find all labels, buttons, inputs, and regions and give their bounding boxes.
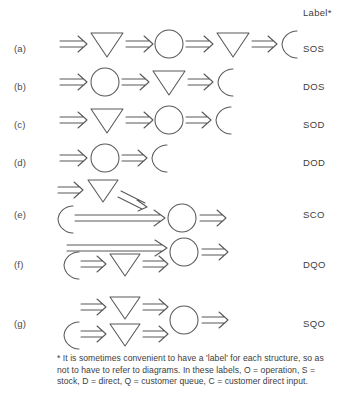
diagram-b bbox=[58, 64, 238, 102]
diagram-f bbox=[55, 236, 255, 294]
row-marker-e: (e) bbox=[14, 209, 26, 220]
row-label-a: SOS bbox=[303, 43, 324, 54]
diagram-e bbox=[55, 178, 245, 238]
row-marker-f: (f) bbox=[14, 259, 24, 270]
row-marker-d: (d) bbox=[14, 157, 26, 168]
row-label-c: SOD bbox=[303, 119, 325, 130]
row-label-b: DOS bbox=[303, 81, 325, 92]
row-label-d: DOD bbox=[303, 157, 325, 168]
diagram-a bbox=[58, 26, 268, 64]
row-marker-b: (b) bbox=[14, 81, 26, 92]
row-label-f: DQO bbox=[303, 259, 326, 270]
diagram-page: Label* (a) SOS bbox=[0, 0, 360, 410]
diagram-c bbox=[58, 102, 238, 140]
row-label-e: SCO bbox=[303, 209, 325, 220]
label-column-header: Label* bbox=[303, 7, 332, 18]
row-marker-g: (g) bbox=[14, 318, 26, 329]
diagram-g bbox=[55, 296, 255, 356]
footnote-text: * It is sometimes convenient to have a '… bbox=[57, 353, 333, 388]
diagram-d bbox=[58, 140, 188, 178]
row-marker-c: (c) bbox=[14, 119, 26, 130]
row-marker-a: (a) bbox=[14, 43, 26, 54]
row-label-g: SQO bbox=[303, 318, 325, 329]
